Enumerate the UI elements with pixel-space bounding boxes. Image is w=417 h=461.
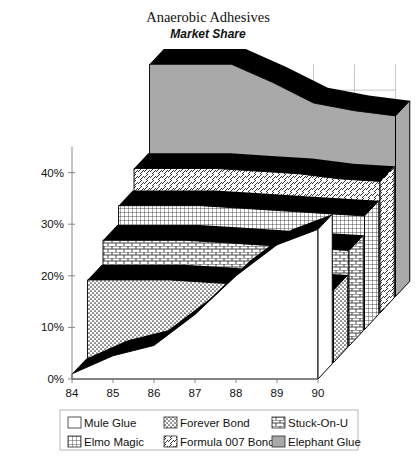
y-axis-tick-label: 20% [41,270,64,282]
x-axis-tick-label: 90 [312,387,325,399]
legend-item-mule-glue[interactable]: Mule Glue [68,417,136,429]
legend-label: Forever Bond [180,417,250,429]
legend-label: Formula 007 Bond [180,436,275,448]
chart-subtitle: Market Share [170,27,246,41]
legend-item-forever-bond[interactable]: Forever Bond [164,417,250,429]
legend-item-formula-007-bond[interactable]: Formula 007 Bond [164,436,275,448]
legend-label: Mule Glue [84,417,136,429]
legend-swatch [164,417,177,428]
legend-item-elmo-magic[interactable]: Elmo Magic [68,436,144,448]
legend-swatch [272,436,285,447]
y-axis-tick-label: 0% [47,373,64,385]
x-axis-tick-label: 86 [148,387,161,399]
legend-label: Elmo Magic [84,436,144,448]
legend-item-stuck-on-u[interactable]: Stuck-On-U [272,417,348,429]
chart-title: Anaerobic Adhesives [146,9,270,25]
chart-container: Anaerobic Adhesives Market Share 0%10%20… [0,0,417,461]
x-axis-tick-label: 88 [230,387,243,399]
legend-swatch [272,417,285,428]
anaerobic-adhesives-3d-area-chart: Anaerobic Adhesives Market Share 0%10%20… [0,0,417,461]
chart-legend[interactable]: Mule GlueForever BondStuck-On-UElmo Magi… [60,410,361,450]
legend-item-elephant-glue[interactable]: Elephant Glue [272,436,361,448]
legend-label: Stuck-On-U [288,417,348,429]
x-axis-tick-label: 87 [189,387,202,399]
legend-swatch [68,417,81,428]
legend-label: Elephant Glue [288,436,361,448]
x-axis-tick-label: 89 [271,387,284,399]
legend-swatch [164,436,177,447]
y-axis-tick-label: 30% [41,218,64,230]
x-axis-tick-label: 84 [66,387,79,399]
y-axis-tick-label: 10% [41,321,64,333]
x-axis-tick-label: 85 [107,387,120,399]
y-axis-tick-label: 40% [41,167,64,179]
legend-swatch [68,436,81,447]
